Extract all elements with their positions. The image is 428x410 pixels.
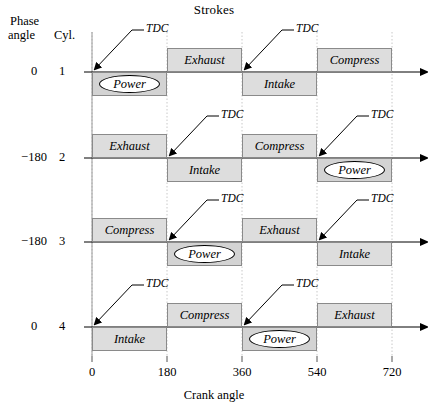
stroke-label: Intake bbox=[264, 77, 295, 92]
x-tick-0: 0 bbox=[72, 365, 112, 380]
stroke-box-power-cyl-4: Power bbox=[242, 327, 317, 351]
stroke-label: Power bbox=[99, 75, 160, 93]
stroke-box-exhaust-cyl-4: Exhaust bbox=[317, 303, 392, 327]
stroke-box-intake-cyl-2: Intake bbox=[167, 158, 242, 182]
stroke-timing-diagram: Strokes Phase angle Cyl. Crank angle 01P… bbox=[0, 0, 428, 410]
stroke-box-power-cyl-2: Power bbox=[317, 158, 392, 182]
stroke-label: Power bbox=[249, 330, 310, 348]
stroke-box-exhaust-cyl-1: Exhaust bbox=[167, 48, 242, 72]
stroke-label: Intake bbox=[189, 163, 220, 178]
tdc-label-cyl-1-0: TDC bbox=[146, 22, 168, 34]
tdc-label-cyl-3-1: TDC bbox=[371, 192, 393, 204]
stroke-label: Compress bbox=[330, 53, 380, 68]
cylinder-number-3: 3 bbox=[50, 234, 74, 249]
cylinder-number-1: 1 bbox=[50, 64, 74, 79]
stroke-box-intake-cyl-1: Intake bbox=[242, 72, 317, 96]
stroke-box-intake-cyl-4: Intake bbox=[92, 327, 167, 351]
stroke-label: Compress bbox=[255, 139, 305, 154]
tdc-label-cyl-2-0: TDC bbox=[221, 108, 243, 120]
stroke-box-exhaust-cyl-3: Exhaust bbox=[242, 218, 317, 242]
stroke-box-intake-cyl-3: Intake bbox=[317, 242, 392, 266]
stroke-label: Compress bbox=[180, 308, 230, 323]
stroke-label: Intake bbox=[339, 247, 370, 262]
stroke-box-compress-cyl-1: Compress bbox=[317, 48, 392, 72]
stroke-label: Exhaust bbox=[334, 308, 374, 323]
stroke-box-exhaust-cyl-2: Exhaust bbox=[92, 134, 167, 158]
tdc-label-cyl-1-1: TDC bbox=[296, 22, 318, 34]
stroke-label: Exhaust bbox=[184, 53, 224, 68]
x-tick-360: 360 bbox=[222, 365, 262, 380]
tdc-label-cyl-3-0: TDC bbox=[221, 192, 243, 204]
stroke-label: Intake bbox=[114, 332, 145, 347]
x-tick-540: 540 bbox=[297, 365, 337, 380]
cylinder-number-2: 2 bbox=[50, 150, 74, 165]
x-tick-720: 720 bbox=[372, 365, 412, 380]
stroke-label: Power bbox=[174, 245, 235, 263]
stroke-label: Power bbox=[324, 161, 385, 179]
stroke-box-compress-cyl-3: Compress bbox=[92, 218, 167, 242]
tdc-label-cyl-2-1: TDC bbox=[371, 108, 393, 120]
stroke-box-compress-cyl-2: Compress bbox=[242, 134, 317, 158]
tdc-label-cyl-4-1: TDC bbox=[296, 277, 318, 289]
stroke-label: Exhaust bbox=[109, 139, 149, 154]
stroke-box-compress-cyl-4: Compress bbox=[167, 303, 242, 327]
stroke-label: Compress bbox=[105, 223, 155, 238]
cylinder-number-4: 4 bbox=[50, 319, 74, 334]
x-tick-180: 180 bbox=[147, 365, 187, 380]
stroke-label: Exhaust bbox=[259, 223, 299, 238]
stroke-box-power-cyl-1: Power bbox=[92, 72, 167, 96]
stroke-box-power-cyl-3: Power bbox=[167, 242, 242, 266]
tdc-label-cyl-4-0: TDC bbox=[146, 277, 168, 289]
